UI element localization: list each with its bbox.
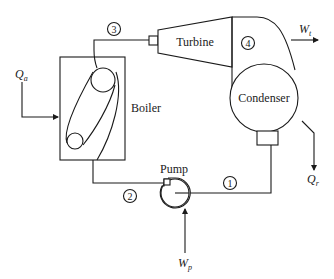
heat-added-label: Qa	[15, 67, 28, 83]
boiler-tube-loop	[66, 72, 93, 143]
steam-drum	[91, 68, 115, 92]
pipe-state-2: 2	[93, 160, 164, 203]
turbine-inlet-nozzle	[149, 36, 158, 45]
heat-rejected-flow: Qr	[302, 121, 320, 188]
turbine-label: Turbine	[176, 35, 214, 49]
boiler-tube-loop-inner	[83, 85, 115, 145]
pipe-state-1: 1	[184, 145, 271, 193]
turbine: Turbine	[149, 17, 232, 67]
boiler-label: Boiler	[131, 101, 161, 115]
rankine-cycle-diagram: Boiler 3 Turbine Condenser 4 1 Pump	[0, 0, 334, 279]
mud-drum	[67, 133, 83, 149]
pump: Pump	[160, 162, 190, 208]
state-1-label: 1	[228, 178, 233, 189]
condenser-outlet-hotwell	[257, 131, 278, 145]
turbine-work-flow: Wt	[291, 22, 318, 40]
state-4-label: 4	[246, 38, 251, 49]
boiler: Boiler	[60, 57, 161, 160]
condenser-label: Condenser	[238, 91, 289, 105]
condenser: Condenser 4	[230, 17, 298, 145]
state-3-label: 3	[112, 24, 117, 35]
pump-work-flow: Wp	[178, 209, 192, 272]
heat-added-flow: Qa	[15, 67, 58, 117]
heat-added-arrow	[22, 82, 58, 117]
heat-rejected-arrow	[302, 121, 314, 170]
heat-rejected-label: Qr	[307, 172, 320, 188]
state-2-label: 2	[128, 191, 133, 202]
turbine-work-label: Wt	[299, 22, 312, 38]
pump-work-label: Wp	[178, 256, 192, 272]
pipe-state-3: 3	[94, 23, 149, 69]
pump-label: Pump	[160, 162, 188, 176]
